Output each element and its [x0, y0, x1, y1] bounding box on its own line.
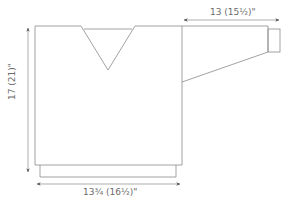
hem-ribbing — [40, 165, 176, 177]
sweater-schematic — [0, 0, 292, 210]
v-neck — [81, 26, 135, 70]
sleeve-length-label: 13 (15½)" — [210, 8, 256, 17]
sleeve-cuff — [268, 29, 280, 52]
body-width-label: 13¾ (16½)" — [83, 188, 137, 197]
sleeve-outline — [182, 26, 268, 82]
body-length-label: 17 (21)" — [8, 63, 17, 100]
body-outline — [35, 26, 182, 165]
